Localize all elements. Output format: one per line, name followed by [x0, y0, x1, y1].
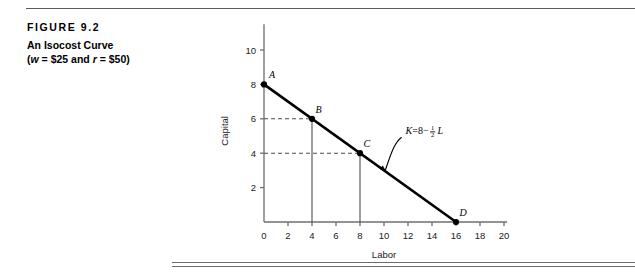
data-point-label: A	[268, 69, 276, 80]
y-tick-label: 8	[251, 79, 256, 90]
x-tick-label: 6	[333, 230, 338, 241]
y-tick-label: 10	[245, 45, 256, 56]
chart-equation-annotation: K = 8 − 12L	[381, 124, 444, 171]
x-tick-label: 12	[403, 230, 414, 241]
y-tick-label: 2	[251, 182, 256, 193]
x-tick-label: 14	[427, 230, 438, 241]
data-point-label: D	[459, 207, 468, 218]
y-axis-title: Capital	[219, 116, 230, 146]
top-divider-rule	[26, 8, 635, 9]
bottom-divider-rule-upper	[172, 262, 635, 263]
x-axis-title: Labor	[372, 249, 396, 260]
data-point-marker	[309, 116, 315, 122]
x-tick-label: 18	[475, 230, 486, 241]
data-point-marker	[453, 219, 459, 225]
chart-point-labels: ABCD	[268, 69, 468, 218]
chart-y-tick-labels: 246810	[245, 45, 256, 194]
x-tick-label: 2	[285, 230, 290, 241]
equation-part: −	[423, 125, 429, 136]
chart-drop-lines	[312, 119, 360, 222]
y-tick-label: 4	[251, 148, 256, 159]
equation-fraction-denominator: 2	[431, 131, 434, 138]
equation-variable: L	[437, 125, 444, 136]
x-tick-label: 20	[499, 230, 510, 241]
x-tick-label: 0	[261, 230, 266, 241]
isocost-chart: 02468101214161820 246810 ABCD K = 8 − 12…	[210, 12, 540, 262]
figure-subtitle-suffix: = $50)	[97, 53, 130, 65]
figure-number-label: FIGURE 9.2	[27, 20, 197, 34]
figure-page: FIGURE 9.2 An Isocost Curve (w = $25 and…	[0, 0, 635, 279]
chart-x-tick-labels: 02468101214161820	[261, 230, 509, 241]
figure-caption-block: FIGURE 9.2 An Isocost Curve (w = $25 and…	[27, 20, 197, 66]
chart-axes	[260, 24, 507, 226]
figure-subtitle: (w = $25 and r = $50)	[27, 53, 197, 67]
data-point-label: B	[316, 104, 322, 115]
annotation-arrow-curve	[385, 137, 401, 170]
x-tick-label: 8	[357, 230, 362, 241]
x-tick-label: 4	[309, 230, 314, 241]
x-tick-label: 16	[451, 230, 462, 241]
data-point-marker	[261, 81, 267, 87]
data-point-label: C	[364, 138, 371, 149]
data-point-marker	[357, 150, 363, 156]
y-tick-label: 6	[251, 113, 256, 124]
figure-subtitle-mid: = $25 and	[39, 53, 93, 65]
x-tick-label: 10	[379, 230, 390, 241]
equation-fraction-numerator: 1	[431, 124, 434, 131]
figure-title: An Isocost Curve	[27, 39, 197, 53]
chart-canvas: 02468101214161820 246810 ABCD K = 8 − 12…	[210, 12, 540, 262]
bottom-divider-rule-lower	[172, 266, 635, 267]
figure-subtitle-var-w: w	[31, 53, 39, 65]
